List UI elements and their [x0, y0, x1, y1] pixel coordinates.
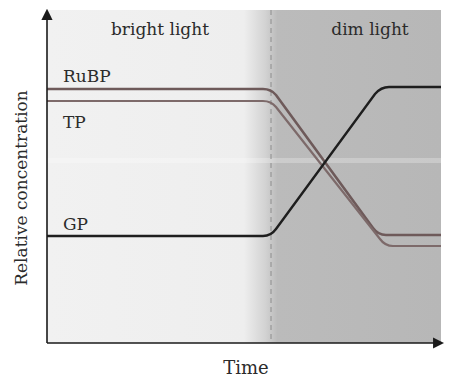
y-axis-label: Relative concentration — [11, 90, 31, 286]
region-label-bright: bright light — [111, 19, 209, 39]
chart: bright light dim light RuBP TP GP Time R… — [0, 0, 450, 388]
plot-background — [47, 10, 441, 343]
series-label-gp: GP — [63, 214, 88, 234]
region-label-dim: dim light — [331, 19, 409, 39]
series-label-rubp: RuBP — [63, 66, 111, 86]
x-axis-label: Time — [223, 357, 268, 378]
bright-band — [47, 158, 441, 163]
series-label-tp: TP — [63, 112, 86, 132]
